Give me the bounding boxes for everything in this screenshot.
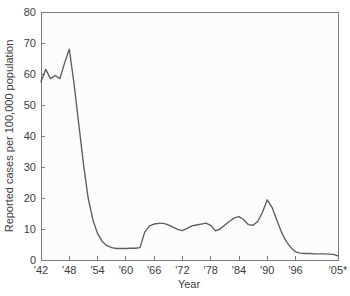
x-tick-label: '90 — [260, 264, 274, 276]
x-tick-label: '42 — [34, 264, 48, 276]
x-tick-label: '84 — [232, 264, 246, 276]
y-axis-title: Reported cases per 100,000 population — [3, 40, 15, 233]
x-axis-title: Year — [178, 278, 201, 290]
y-tick-label: 30 — [24, 161, 36, 173]
x-tick-label: '78 — [204, 264, 218, 276]
line-chart: 01020304050607080 '42'48'54'60'66'72'78'… — [0, 0, 350, 296]
x-tick-label: '96 — [288, 264, 302, 276]
x-tick-label: '60 — [119, 264, 133, 276]
y-axis-tick-labels: 01020304050607080 — [24, 6, 36, 266]
chart-canvas: 01020304050607080 '42'48'54'60'66'72'78'… — [0, 0, 350, 296]
y-tick-label: 40 — [24, 130, 36, 142]
y-tick-label: 80 — [24, 6, 36, 18]
y-tick-label: 70 — [24, 37, 36, 49]
x-tick-label: '72 — [175, 264, 189, 276]
plot-background — [41, 12, 338, 260]
y-tick-label: 60 — [24, 68, 36, 80]
x-tick-label: '05* — [329, 264, 348, 276]
x-tick-label: '54 — [90, 264, 104, 276]
x-tick-label: '48 — [62, 264, 76, 276]
y-tick-label: 10 — [24, 223, 36, 235]
x-tick-label: '66 — [147, 264, 161, 276]
x-axis-tick-labels: '42'48'54'60'66'72'78'84'90'96'05* — [34, 264, 348, 276]
y-tick-label: 20 — [24, 192, 36, 204]
y-tick-label: 50 — [24, 99, 36, 111]
